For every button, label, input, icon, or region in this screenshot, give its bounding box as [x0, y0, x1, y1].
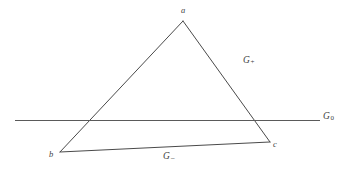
g-zero-subscript: 0: [330, 114, 334, 122]
line-label-g-zero: G0: [323, 112, 334, 122]
g-minus-base: G: [163, 151, 170, 161]
g-zero-base: G: [323, 111, 330, 121]
figure-canvas: [0, 0, 349, 170]
vertex-label-c: c: [273, 140, 277, 149]
edge-label-g-plus: G+: [243, 56, 254, 66]
vertex-label-a: a: [181, 6, 185, 15]
vertex-label-b: b: [49, 150, 53, 159]
edge-a-b: [60, 21, 183, 152]
edge-a-c: [183, 21, 270, 142]
g-plus-subscript: +: [250, 58, 254, 66]
g-plus-base: G: [243, 55, 250, 65]
geometric-figure: a b c G+ G− G0: [0, 0, 349, 170]
g-minus-subscript: −: [170, 154, 175, 163]
edge-label-g-minus: G−: [163, 152, 175, 163]
